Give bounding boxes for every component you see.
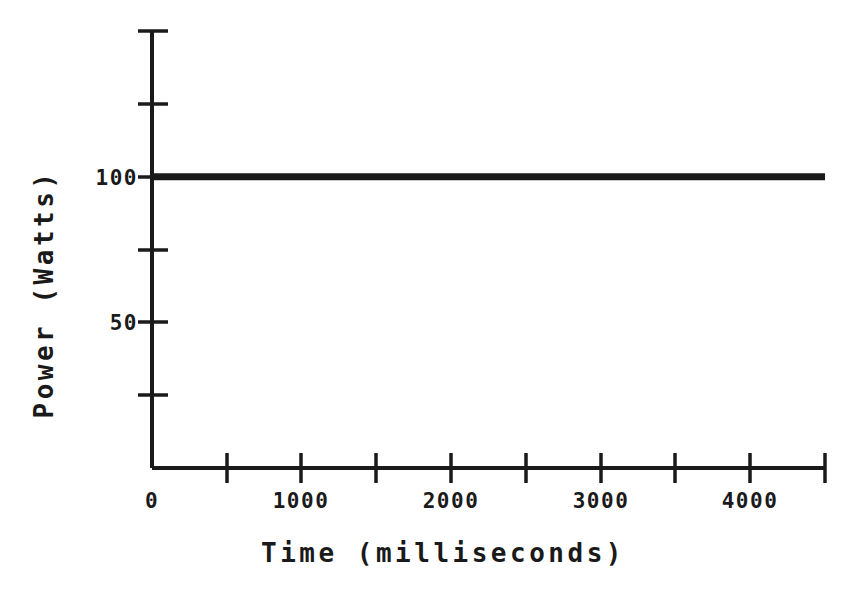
y-tick-label-50: 50 (110, 311, 138, 335)
y-axis-title: Power (Watts) (29, 170, 59, 419)
x-axis-title: Time (milliseconds) (261, 538, 625, 568)
y-tick-label-100: 100 (96, 166, 138, 190)
power-vs-time-chart: 100 50 Power (Watts) 0 1000 2000 3000 40… (0, 0, 853, 597)
x-tick-label-3000: 3000 (573, 489, 630, 513)
x-tick-label-4000: 4000 (722, 489, 779, 513)
x-tick-label-0: 0 (145, 489, 159, 513)
x-tick-label-2000: 2000 (423, 489, 480, 513)
chart-figure: 100 50 Power (Watts) 0 1000 2000 3000 40… (0, 0, 853, 597)
x-tick-label-1000: 1000 (273, 489, 330, 513)
